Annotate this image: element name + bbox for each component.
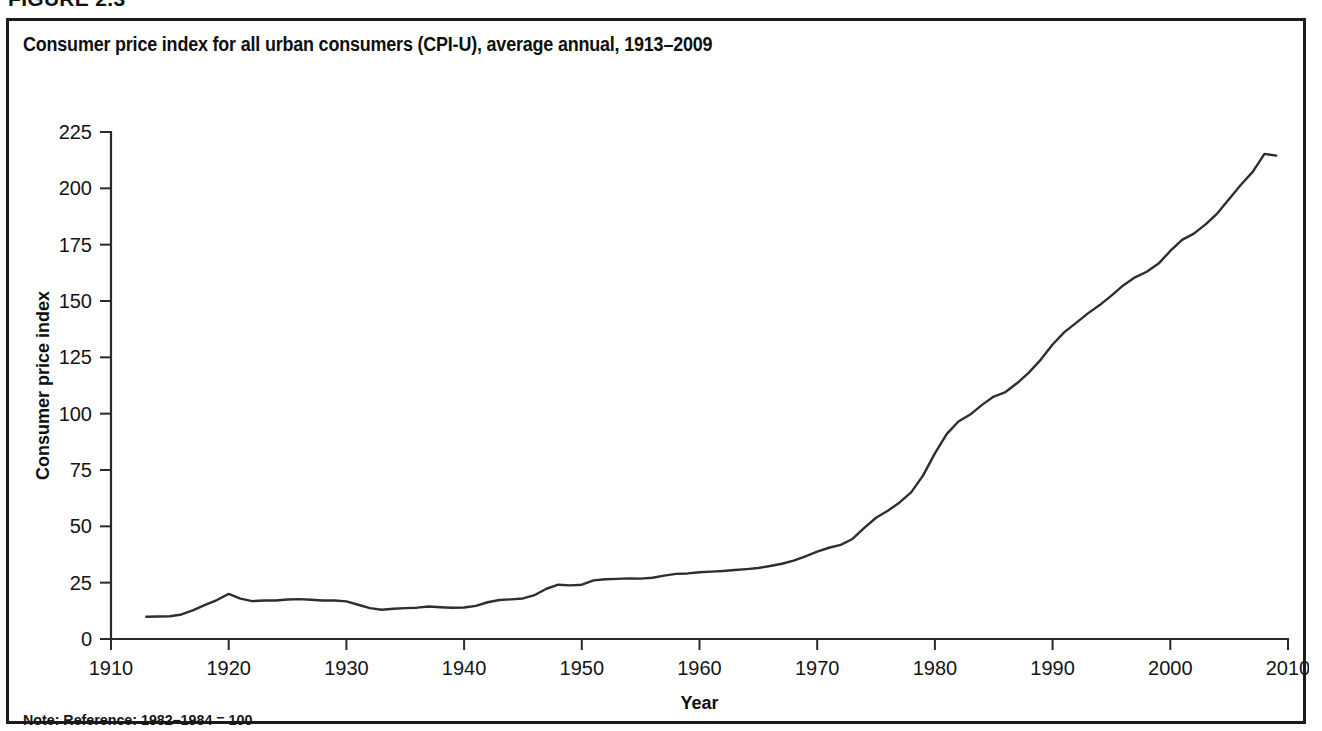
y-axis-title: Consumer price index [33,291,53,480]
cpi-line-chart: 0255075100125150175200225191019201930194… [9,21,1309,727]
figure-box: Consumer price index for all urban consu… [6,18,1306,724]
svg-text:1970: 1970 [795,657,840,679]
x-axis-title: Year [680,693,718,713]
chart-axis-titles: YearConsumer price index [33,291,719,713]
svg-text:100: 100 [59,403,92,425]
svg-text:0: 0 [81,628,92,650]
chart-note: Note: Reference: 1982–1984 = 100 [23,711,252,728]
chart-axes [111,132,1288,639]
svg-text:75: 75 [70,459,92,481]
svg-text:50: 50 [70,515,92,537]
svg-text:1980: 1980 [913,657,958,679]
svg-text:225: 225 [59,121,92,143]
figure-caption: FIGURE 2.3 [8,0,125,11]
svg-text:1920: 1920 [206,657,251,679]
svg-text:1990: 1990 [1030,657,1075,679]
svg-text:1940: 1940 [442,657,487,679]
series-line-cpi-u [146,154,1276,617]
svg-text:2010: 2010 [1266,657,1309,679]
svg-text:1960: 1960 [677,657,722,679]
svg-text:1910: 1910 [89,657,134,679]
chart-series-group [146,154,1276,617]
svg-text:150: 150 [59,290,92,312]
svg-text:175: 175 [59,234,92,256]
svg-text:200: 200 [59,177,92,199]
svg-text:125: 125 [59,346,92,368]
svg-text:2000: 2000 [1148,657,1193,679]
svg-text:1930: 1930 [324,657,369,679]
chart-tick-labels: 0255075100125150175200225191019201930194… [59,121,1309,679]
svg-text:1950: 1950 [560,657,605,679]
svg-text:25: 25 [70,572,92,594]
